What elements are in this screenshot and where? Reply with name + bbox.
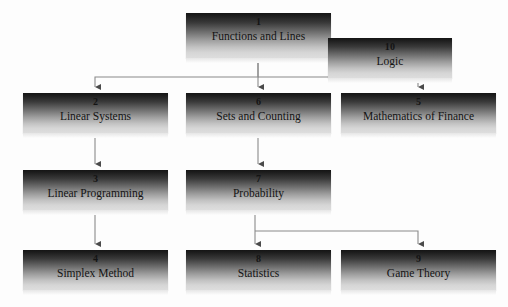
node-label: Mathematics of Finance (363, 109, 474, 124)
node-label: Sets and Counting (216, 109, 300, 124)
node-number: 4 (93, 253, 98, 265)
node-label: Simplex Method (57, 266, 134, 281)
node-number: 2 (93, 96, 98, 108)
node-probability[interactable]: 7 Probability (186, 170, 331, 210)
node-number: 7 (256, 173, 261, 185)
node-logic[interactable]: 10 Logic (328, 38, 452, 78)
node-number: 10 (385, 41, 395, 53)
node-label: Statistics (238, 266, 280, 281)
node-label: Functions and Lines (212, 29, 305, 44)
node-number: 6 (256, 96, 261, 108)
node-label: Game Theory (387, 266, 450, 281)
node-statistics[interactable]: 8 Statistics (186, 250, 331, 290)
node-linear-systems[interactable]: 2 Linear Systems (23, 93, 168, 133)
node-label: Logic (377, 54, 404, 69)
node-sets-and-counting[interactable]: 6 Sets and Counting (186, 93, 331, 133)
node-label: Linear Systems (60, 109, 131, 124)
node-label: Probability (233, 186, 284, 201)
node-number: 1 (256, 16, 261, 28)
edge-7-to-9 (255, 231, 418, 244)
node-mathematics-of-finance[interactable]: 5 Mathematics of Finance (341, 93, 496, 133)
node-game-theory[interactable]: 9 Game Theory (341, 250, 496, 290)
node-functions-and-lines[interactable]: 1 Functions and Lines (186, 13, 331, 58)
node-number: 8 (256, 253, 261, 265)
node-number: 5 (416, 96, 421, 108)
node-number: 9 (416, 253, 421, 265)
node-simplex-method[interactable]: 4 Simplex Method (23, 250, 168, 290)
node-linear-programming[interactable]: 3 Linear Programming (23, 170, 168, 210)
node-number: 3 (93, 173, 98, 185)
flowchart-canvas: 1 Functions and Lines 10 Logic 2 Linear … (0, 0, 508, 307)
node-label: Linear Programming (47, 186, 143, 201)
